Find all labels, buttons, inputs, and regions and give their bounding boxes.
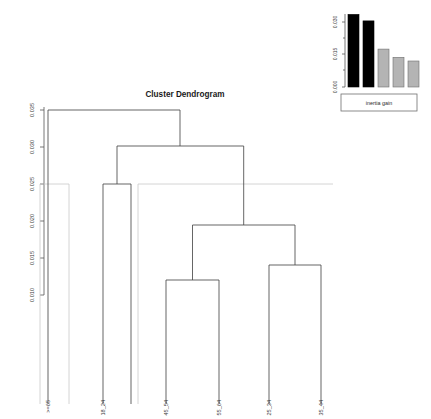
inset-y-tick-label: 0.030 — [332, 16, 338, 29]
inset-bar-1 — [348, 14, 359, 87]
y-tick-label: 0.035 — [29, 103, 35, 117]
legend-label: inertia gain — [366, 100, 392, 106]
y-tick-label: 0.030 — [29, 140, 35, 154]
leaf-label-45-54: 45_54 — [163, 400, 169, 416]
plot-canvas: Cluster Dendrogram 0.035 0.030 0.025 0.0… — [0, 0, 431, 419]
y-tick-label: 0.020 — [29, 214, 35, 228]
leaf-label-35-44: 35_44 — [318, 400, 324, 416]
leaf-label-25-34: 25_34 — [266, 400, 272, 416]
inset-y-tick-label: 0.015 — [332, 48, 338, 61]
inset-bar-5 — [408, 61, 419, 87]
inset-legend: inertia gain — [341, 94, 417, 111]
dendrogram-page: Cluster Dendrogram 0.035 0.030 0.025 0.0… — [0, 0, 431, 419]
page-title: Cluster Dendrogram — [145, 90, 224, 99]
leaf-label-55-64: 55_64 — [216, 400, 222, 416]
inset-bar-2 — [363, 21, 374, 87]
inset-bar-3 — [378, 49, 389, 87]
inset-bar-4 — [393, 57, 404, 87]
y-tick-label: 0.010 — [29, 288, 35, 302]
leaf-label-18-24: 18_24 — [100, 400, 106, 416]
y-tick-label: 0.025 — [29, 177, 35, 191]
inset-y-tick-label: 0.000 — [332, 81, 338, 94]
leaf-label-65plus: >=65 — [45, 400, 51, 413]
y-tick-label: 0.015 — [29, 251, 35, 265]
